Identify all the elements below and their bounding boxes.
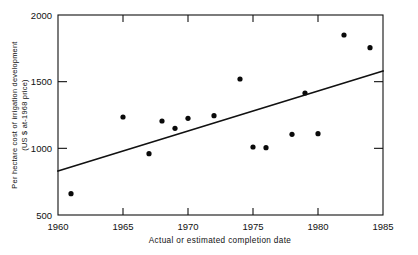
data-point [68, 191, 73, 196]
y-tick-label: 1500 [31, 76, 52, 87]
x-axis-title: Actual or estimated completion date [149, 236, 292, 245]
y-tick-label: 500 [36, 210, 52, 221]
x-tick-label: 1970 [177, 221, 198, 232]
data-point [146, 151, 151, 156]
chart-figure: 196019651970197519801985 500100015002000… [0, 0, 418, 255]
data-point [341, 32, 346, 37]
y-tick-label: 2000 [31, 10, 52, 21]
x-tick-label: 1980 [307, 221, 328, 232]
x-tick-label: 1960 [47, 221, 68, 232]
data-point [159, 118, 164, 123]
plot-frame [58, 15, 383, 215]
x-tick-label: 1985 [372, 221, 393, 232]
data-point [315, 131, 320, 136]
data-point [250, 144, 255, 149]
trend-line [58, 71, 383, 171]
y-axis-title-line1: Per hectare cost of irrigation developme… [10, 41, 19, 188]
data-point [185, 116, 190, 121]
x-axis-tick-labels: 196019651970197519801985 [47, 221, 393, 232]
x-tick-label: 1965 [112, 221, 133, 232]
data-point [237, 76, 242, 81]
data-point [211, 113, 216, 118]
data-points-layer [68, 32, 372, 196]
x-axis-ticks [123, 15, 318, 215]
data-point [172, 126, 177, 131]
data-point [263, 145, 268, 150]
y-axis-tick-labels: 500100015002000 [31, 10, 52, 221]
data-point [367, 45, 372, 50]
y-axis-title-line2: (US $ at-1968 price) [20, 79, 29, 151]
y-tick-label: 1000 [31, 143, 52, 154]
scatter-plot-svg: 196019651970197519801985 500100015002000… [0, 0, 418, 255]
data-point [120, 114, 125, 119]
y-axis-ticks [58, 82, 383, 149]
data-point [289, 132, 294, 137]
x-tick-label: 1975 [242, 221, 263, 232]
